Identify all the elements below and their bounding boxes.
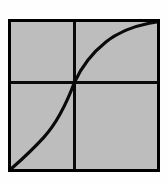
data-series-curve [11, 22, 157, 169]
plot-canvas [11, 22, 157, 169]
plot-surface [11, 22, 157, 169]
figure-root [0, 0, 168, 185]
plot-frame [8, 19, 160, 172]
